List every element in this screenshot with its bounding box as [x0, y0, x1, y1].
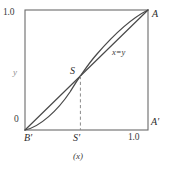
figure-container: 1.0 0 1.0 y A A′ B′ S S′ x=y (x) [0, 0, 173, 170]
diagonal-equation-label: x=y [112, 48, 125, 57]
y-axis-tick-bottom: 0 [14, 115, 19, 125]
point-label-a: A [152, 9, 158, 19]
point-label-s-prime: S′ [73, 133, 80, 143]
point-label-b-prime: B′ [24, 133, 32, 143]
x-axis-tick-right: 1.0 [128, 133, 139, 143]
figure-caption: (x) [73, 152, 83, 161]
diagonal-line-x-equals-y [25, 10, 148, 130]
point-label-s: S [70, 66, 75, 76]
y-axis-tick-top: 1.0 [3, 8, 14, 18]
point-label-a-prime: A′ [151, 117, 159, 127]
y-axis-label: y [13, 68, 17, 77]
plot-canvas [0, 0, 173, 170]
